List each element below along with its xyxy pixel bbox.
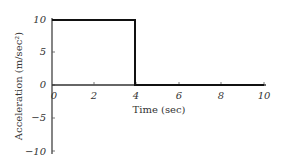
x-tick-label: 0 [51,90,58,101]
x-tick-label: 4 [132,90,139,101]
y-axis-title: Acceleration (m/sec²) [13,32,24,141]
x-axis-title: Time (sec) [133,104,186,115]
x-tick-label: 6 [176,90,183,101]
y-tick-label: 5 [40,46,46,57]
x-tick-label: 2 [90,90,97,101]
y-tick-label: −5 [31,112,46,123]
x-tick-label: 10 [258,90,271,101]
x-tick-label: 8 [218,90,224,101]
acceleration-chart: 10 5 0 −5 −10 0 2 4 6 8 10 Time (sec) Ac… [0,0,284,168]
acceleration-series-line [52,20,264,85]
y-tick-label: −10 [25,146,47,157]
y-tick-label: 0 [40,79,47,90]
y-tick-label: 10 [33,14,46,25]
